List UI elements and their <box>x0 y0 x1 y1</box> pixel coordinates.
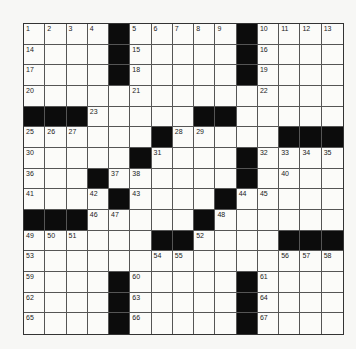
grid-cell[interactable] <box>152 86 173 107</box>
grid-cell[interactable] <box>237 251 258 272</box>
grid-cell[interactable] <box>152 45 173 66</box>
grid-cell[interactable]: 33 <box>279 148 300 169</box>
grid-cell[interactable] <box>152 210 173 231</box>
grid-cell[interactable]: 30 <box>24 148 45 169</box>
grid-cell[interactable] <box>194 189 215 210</box>
grid-cell[interactable]: 9 <box>215 24 236 45</box>
grid-cell[interactable]: 49 <box>24 231 45 252</box>
grid-cell[interactable] <box>109 251 130 272</box>
grid-cell[interactable] <box>322 169 343 190</box>
grid-cell[interactable]: 64 <box>258 293 279 314</box>
grid-cell[interactable] <box>194 148 215 169</box>
grid-cell[interactable] <box>322 272 343 293</box>
grid-cell[interactable] <box>88 272 109 293</box>
grid-cell[interactable]: 27 <box>67 127 88 148</box>
grid-cell[interactable] <box>67 45 88 66</box>
grid-cell[interactable]: 43 <box>130 189 151 210</box>
grid-cell[interactable]: 63 <box>130 293 151 314</box>
grid-cell[interactable]: 37 <box>109 169 130 190</box>
grid-cell[interactable]: 10 <box>258 24 279 45</box>
grid-cell[interactable] <box>215 148 236 169</box>
grid-cell[interactable] <box>45 86 66 107</box>
grid-cell[interactable]: 65 <box>24 313 45 334</box>
grid-cell[interactable]: 5 <box>130 24 151 45</box>
grid-cell[interactable] <box>173 45 194 66</box>
grid-cell[interactable] <box>45 272 66 293</box>
grid-cell[interactable]: 46 <box>88 210 109 231</box>
grid-cell[interactable]: 19 <box>258 65 279 86</box>
grid-cell[interactable] <box>88 251 109 272</box>
grid-cell[interactable]: 31 <box>152 148 173 169</box>
grid-cell[interactable] <box>300 313 321 334</box>
grid-cell[interactable] <box>279 189 300 210</box>
grid-cell[interactable] <box>173 65 194 86</box>
grid-cell[interactable]: 66 <box>130 313 151 334</box>
grid-cell[interactable]: 62 <box>24 293 45 314</box>
grid-cell[interactable]: 15 <box>130 45 151 66</box>
grid-cell[interactable] <box>109 127 130 148</box>
grid-cell[interactable]: 7 <box>173 24 194 45</box>
grid-cell[interactable] <box>194 65 215 86</box>
grid-cell[interactable] <box>45 313 66 334</box>
grid-cell[interactable]: 59 <box>24 272 45 293</box>
grid-cell[interactable]: 41 <box>24 189 45 210</box>
grid-cell[interactable] <box>67 65 88 86</box>
grid-cell[interactable] <box>45 169 66 190</box>
grid-cell[interactable] <box>88 45 109 66</box>
grid-cell[interactable] <box>130 127 151 148</box>
grid-cell[interactable] <box>109 107 130 128</box>
grid-cell[interactable]: 57 <box>300 251 321 272</box>
grid-cell[interactable] <box>215 293 236 314</box>
grid-cell[interactable] <box>300 189 321 210</box>
grid-cell[interactable]: 8 <box>194 24 215 45</box>
grid-cell[interactable]: 40 <box>279 169 300 190</box>
grid-cell[interactable]: 32 <box>258 148 279 169</box>
grid-cell[interactable] <box>130 210 151 231</box>
grid-cell[interactable] <box>67 169 88 190</box>
grid-cell[interactable]: 67 <box>258 313 279 334</box>
grid-cell[interactable] <box>237 107 258 128</box>
grid-cell[interactable] <box>130 107 151 128</box>
grid-cell[interactable] <box>215 272 236 293</box>
grid-cell[interactable] <box>194 86 215 107</box>
grid-cell[interactable] <box>279 86 300 107</box>
grid-cell[interactable]: 25 <box>24 127 45 148</box>
grid-cell[interactable]: 54 <box>152 251 173 272</box>
grid-cell[interactable]: 51 <box>67 231 88 252</box>
grid-cell[interactable] <box>322 45 343 66</box>
grid-cell[interactable] <box>67 251 88 272</box>
grid-cell[interactable]: 4 <box>88 24 109 45</box>
grid-cell[interactable] <box>300 272 321 293</box>
grid-cell[interactable] <box>67 148 88 169</box>
grid-cell[interactable] <box>194 293 215 314</box>
grid-cell[interactable] <box>279 272 300 293</box>
grid-cell[interactable] <box>300 210 321 231</box>
grid-cell[interactable] <box>88 148 109 169</box>
grid-cell[interactable] <box>194 169 215 190</box>
grid-cell[interactable] <box>322 210 343 231</box>
grid-cell[interactable]: 3 <box>67 24 88 45</box>
grid-cell[interactable] <box>88 127 109 148</box>
grid-cell[interactable] <box>173 293 194 314</box>
grid-cell[interactable]: 55 <box>173 251 194 272</box>
grid-cell[interactable] <box>45 45 66 66</box>
grid-cell[interactable] <box>109 86 130 107</box>
grid-cell[interactable]: 6 <box>152 24 173 45</box>
grid-cell[interactable]: 14 <box>24 45 45 66</box>
grid-cell[interactable]: 60 <box>130 272 151 293</box>
grid-cell[interactable]: 26 <box>45 127 66 148</box>
grid-cell[interactable] <box>279 45 300 66</box>
grid-cell[interactable] <box>109 231 130 252</box>
grid-cell[interactable] <box>88 231 109 252</box>
grid-cell[interactable] <box>88 313 109 334</box>
grid-cell[interactable] <box>152 272 173 293</box>
grid-cell[interactable] <box>215 86 236 107</box>
grid-cell[interactable] <box>237 231 258 252</box>
grid-cell[interactable] <box>152 169 173 190</box>
grid-cell[interactable]: 38 <box>130 169 151 190</box>
grid-cell[interactable]: 20 <box>24 86 45 107</box>
grid-cell[interactable] <box>173 189 194 210</box>
grid-cell[interactable] <box>173 169 194 190</box>
grid-cell[interactable]: 13 <box>322 24 343 45</box>
grid-cell[interactable] <box>237 86 258 107</box>
